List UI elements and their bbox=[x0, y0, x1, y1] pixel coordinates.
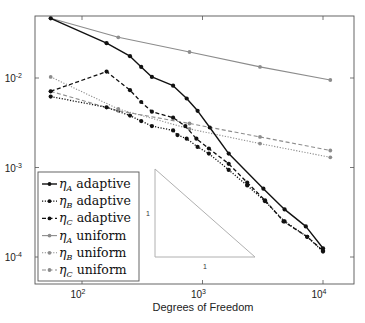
data-point bbox=[328, 78, 332, 82]
data-point bbox=[283, 207, 287, 211]
slope-triangle-vertical-label: 1 bbox=[146, 210, 150, 217]
data-point bbox=[328, 149, 332, 153]
data-point bbox=[105, 70, 109, 74]
data-point bbox=[196, 109, 200, 113]
data-point bbox=[49, 95, 53, 99]
data-point bbox=[150, 124, 154, 128]
x-axis-title: Degrees of Freedom bbox=[153, 301, 254, 313]
data-point bbox=[258, 65, 262, 69]
data-point bbox=[49, 16, 53, 20]
data-point bbox=[328, 155, 332, 159]
data-point bbox=[139, 65, 143, 69]
data-point bbox=[105, 41, 109, 45]
data-point bbox=[321, 249, 325, 253]
data-point bbox=[261, 187, 265, 191]
data-point bbox=[258, 135, 262, 139]
data-point bbox=[227, 162, 231, 166]
data-point bbox=[227, 168, 231, 172]
data-point bbox=[171, 84, 175, 88]
data-point bbox=[281, 219, 285, 223]
data-point bbox=[304, 224, 308, 228]
legend-marker bbox=[48, 199, 52, 203]
data-point bbox=[196, 145, 200, 149]
data-point bbox=[258, 142, 262, 146]
data-point bbox=[139, 119, 143, 123]
legend-marker bbox=[48, 251, 52, 255]
data-point bbox=[49, 75, 53, 79]
data-point bbox=[245, 180, 249, 184]
data-point bbox=[185, 96, 189, 100]
data-point bbox=[185, 137, 189, 141]
data-point bbox=[171, 116, 175, 120]
legend-marker bbox=[48, 217, 52, 221]
data-point bbox=[263, 198, 267, 202]
data-point bbox=[128, 88, 132, 92]
data-point bbox=[139, 100, 143, 104]
data-point bbox=[188, 50, 192, 54]
data-point bbox=[183, 124, 187, 128]
legend-marker bbox=[48, 234, 52, 238]
data-point bbox=[105, 105, 109, 109]
data-point bbox=[305, 235, 309, 239]
data-point bbox=[207, 152, 211, 156]
data-point bbox=[175, 133, 179, 137]
data-point bbox=[208, 125, 212, 129]
data-point bbox=[194, 137, 198, 141]
slope-triangle-horizontal-label: 1 bbox=[203, 263, 207, 270]
data-point bbox=[49, 89, 53, 93]
data-point bbox=[128, 114, 132, 118]
convergence-chart: 10210310410-210-310-4 1 1 ηAadaptiveηBad… bbox=[0, 0, 365, 323]
data-point bbox=[227, 152, 231, 156]
data-point bbox=[171, 128, 175, 132]
data-point bbox=[150, 110, 154, 114]
data-point bbox=[116, 35, 120, 39]
data-point bbox=[207, 146, 211, 150]
legend-marker bbox=[48, 268, 52, 272]
legend: ηAadaptiveηBadaptiveηCadaptiveηAuniformη… bbox=[38, 172, 139, 281]
legend-marker bbox=[48, 182, 52, 186]
data-point bbox=[188, 122, 192, 126]
data-point bbox=[150, 75, 154, 79]
data-point bbox=[128, 54, 132, 58]
